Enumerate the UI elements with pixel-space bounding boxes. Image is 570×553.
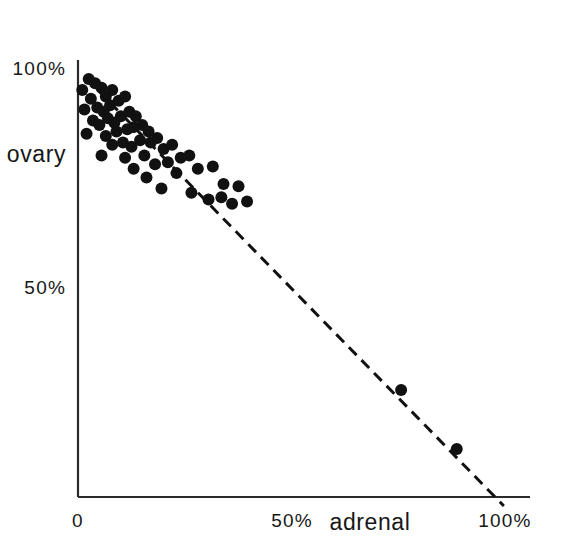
data-point (140, 172, 152, 184)
y-tick-label-100: 100% (13, 58, 66, 79)
data-point (106, 84, 118, 96)
data-point (170, 167, 182, 179)
data-point (183, 150, 195, 162)
plot-canvas: 100% 50% 0 50% 100% ovary adrenal (0, 0, 570, 553)
data-point (215, 191, 227, 203)
data-point (162, 156, 174, 168)
data-point (119, 152, 131, 164)
data-point (151, 132, 163, 144)
data-point (395, 384, 407, 396)
data-point (233, 180, 245, 192)
data-point (185, 187, 197, 199)
data-point (226, 198, 238, 210)
data-point (78, 104, 90, 116)
data-point (166, 139, 178, 151)
x-tick-label-0: 0 (72, 510, 84, 531)
data-point (218, 178, 230, 190)
tick-labels-group: 100% 50% 0 50% 100% (13, 58, 532, 531)
data-point (149, 158, 161, 170)
data-point (203, 193, 215, 205)
x-tick-label-50: 50% (271, 510, 313, 531)
data-point (128, 163, 140, 175)
y-tick-label-50: 50% (24, 277, 66, 298)
data-point (241, 196, 253, 208)
data-point (106, 139, 118, 151)
data-point (451, 443, 463, 455)
data-point (111, 126, 123, 138)
data-point (207, 161, 219, 173)
data-point (155, 182, 167, 194)
data-point (134, 134, 146, 146)
data-point (76, 84, 88, 96)
data-point (81, 128, 93, 140)
ovary-axis-title: ovary (7, 141, 66, 167)
data-point (192, 163, 204, 175)
data-point (96, 150, 108, 162)
adrenal-axis-title: adrenal (330, 509, 411, 535)
data-point (138, 150, 150, 162)
x-tick-label-100: 100% (478, 510, 531, 531)
scatter-plot-figure: 100% 50% 0 50% 100% ovary adrenal (0, 0, 570, 553)
data-point (119, 90, 131, 102)
